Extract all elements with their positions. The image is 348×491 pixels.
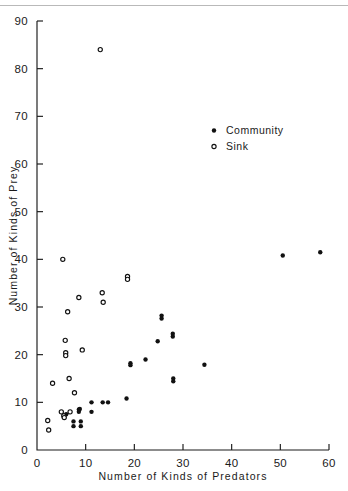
data-point-community (89, 410, 93, 414)
data-point-sink (61, 257, 65, 261)
data-point-community (106, 400, 110, 404)
data-point-sink (101, 300, 105, 304)
data-point-sink (67, 376, 71, 380)
data-point-community (202, 362, 206, 366)
data-point-community (171, 334, 175, 338)
data-point-sink (80, 348, 84, 352)
data-point-sink (64, 354, 68, 358)
data-point-community (124, 396, 128, 400)
y-tick-label: 10 (15, 396, 28, 408)
data-point-sink (66, 310, 70, 314)
data-point-sink (46, 418, 50, 422)
data-point-community (159, 316, 163, 320)
data-point-community (78, 407, 82, 411)
y-axis-title: Number of Kinds of Prey (7, 166, 19, 306)
data-point-sink (62, 415, 66, 419)
scatter-plot-figure: 01020304050607080900102030405060 Communi… (0, 0, 348, 491)
x-axis-title: Number of Kinds of Predators (98, 470, 267, 482)
data-point-community (318, 250, 322, 254)
axis-titles: Number of Kinds of PredatorsNumber of Ki… (7, 166, 268, 482)
x-tick-label: 10 (79, 457, 92, 469)
data-point-community (143, 357, 147, 361)
data-point-community (89, 400, 93, 404)
plot-canvas: 01020304050607080900102030405060 Communi… (0, 0, 348, 491)
data-point-sink (77, 295, 81, 299)
data-point-sink (100, 291, 104, 295)
axes (37, 21, 329, 450)
y-tick-label: 80 (15, 63, 28, 75)
y-tick-label: 20 (15, 349, 28, 361)
legend: CommunitySink (212, 124, 284, 152)
data-point-community (101, 400, 105, 404)
data-point-sink (72, 391, 76, 395)
legend-label: Sink (226, 140, 249, 152)
legend-label: Community (226, 124, 284, 136)
y-tick-label: 90 (15, 15, 28, 27)
x-tick-label: 0 (34, 457, 41, 469)
data-point-community (71, 424, 75, 428)
data-points (46, 48, 323, 433)
data-point-sink (68, 410, 72, 414)
data-point-sink (125, 277, 129, 281)
data-point-community (71, 419, 75, 423)
data-point-sink (47, 428, 51, 432)
data-point-community (155, 339, 159, 343)
data-point-community (79, 424, 83, 428)
data-point-sink (98, 48, 102, 52)
data-point-sink (63, 338, 67, 342)
data-point-community (128, 363, 132, 367)
y-tick-label: 0 (21, 444, 28, 456)
x-tick-label: 30 (176, 457, 189, 469)
legend-marker-community (212, 128, 216, 132)
x-tick-label: 60 (322, 457, 335, 469)
data-point-sink (50, 381, 54, 385)
y-tick-label: 70 (15, 110, 28, 122)
x-tick-label: 50 (274, 457, 287, 469)
data-point-community (281, 253, 285, 257)
data-point-community (171, 379, 175, 383)
data-point-community (79, 419, 83, 423)
legend-marker-sink (212, 144, 216, 148)
x-tick-label: 40 (225, 457, 238, 469)
tick-labels: 01020304050607080900102030405060 (15, 15, 336, 469)
x-tick-label: 20 (128, 457, 141, 469)
